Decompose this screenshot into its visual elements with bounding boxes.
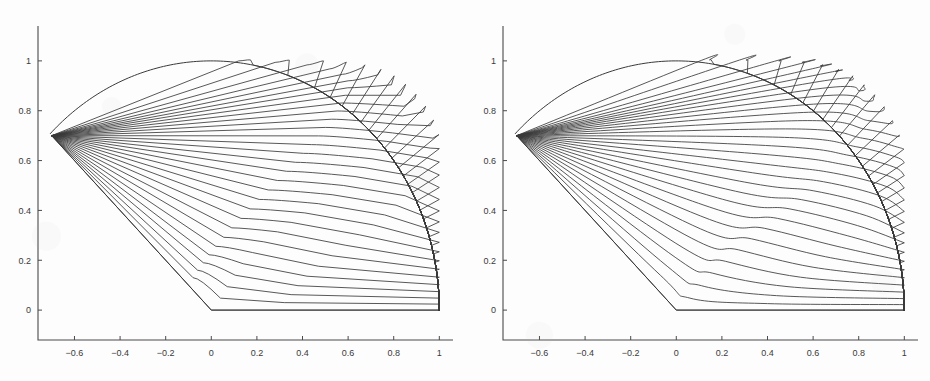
x-tick-label: 0.4 (296, 348, 309, 358)
x-tick-label: 0.2 (251, 348, 264, 358)
outer-arc-boundary (50, 61, 439, 310)
domain-boundary (52, 136, 440, 310)
contour-group (52, 60, 440, 310)
y-tick-label: 1 (26, 56, 31, 66)
x-tick-label: −0.2 (622, 348, 640, 358)
contour-line (517, 69, 905, 310)
contour-line (52, 136, 440, 310)
contour-line (52, 136, 440, 310)
contour-line (517, 95, 905, 310)
y-tick-label: 0.2 (18, 256, 31, 266)
contour-line (52, 60, 440, 310)
contour-line (52, 136, 440, 310)
x-tick-label: 0 (209, 348, 214, 358)
x-tick-label: 0.4 (761, 348, 774, 358)
x-tick-label: −0.4 (576, 348, 594, 358)
contour-line (52, 84, 440, 310)
x-tick-label: −0.2 (157, 348, 175, 358)
y-tick-label: 0.8 (18, 106, 31, 116)
y-tick-label: 0.6 (18, 156, 31, 166)
contour-line (52, 136, 440, 310)
y-tick-label: 0 (26, 305, 31, 315)
contour-line (52, 136, 440, 310)
contour-line (52, 136, 440, 310)
x-tick-label: −0.6 (66, 348, 84, 358)
y-tick-label: 0.8 (483, 106, 496, 116)
contour-line (52, 136, 440, 310)
x-tick-label: 0.8 (852, 348, 865, 358)
contour-line (52, 136, 440, 310)
contour-line (52, 61, 440, 310)
x-tick-label: 1 (902, 348, 907, 358)
contour-line (52, 136, 440, 310)
contour-line (52, 136, 440, 310)
x-tick-label: 0.6 (342, 348, 355, 358)
contour-line (52, 136, 440, 310)
contour-line (52, 60, 440, 310)
contour-line (517, 112, 905, 310)
contour-line (52, 65, 440, 310)
plot-svg-right: −0.6−0.4−0.200.20.40.60.8100.20.40.60.81 (465, 0, 930, 381)
x-tick-label: −0.6 (531, 348, 549, 358)
y-tick-label: 0.4 (18, 206, 31, 216)
plot-panel-right: −0.6−0.4−0.200.20.40.60.8100.20.40.60.81 (465, 0, 930, 381)
plot-panel-left: −0.6−0.4−0.200.20.40.60.8100.20.40.60.81 (0, 0, 465, 381)
contour-line (52, 106, 440, 310)
x-tick-label: 0 (674, 348, 679, 358)
y-tick-label: 0.6 (483, 156, 496, 166)
contour-line (52, 62, 440, 310)
plot-svg-left: −0.6−0.4−0.200.20.40.60.8100.20.40.60.81 (0, 0, 465, 381)
contour-line (52, 136, 440, 310)
y-tick-label: 0 (491, 305, 496, 315)
contour-line (52, 136, 440, 310)
contour-group (517, 55, 905, 310)
contour-line (52, 136, 440, 310)
x-tick-label: 0.8 (387, 348, 400, 358)
contour-line (517, 104, 905, 311)
contour-line (52, 136, 440, 310)
y-tick-label: 1 (491, 56, 496, 66)
x-tick-label: 0.2 (716, 348, 729, 358)
contour-line (52, 76, 440, 310)
contour-line (52, 136, 440, 310)
figure-canvas: −0.6−0.4−0.200.20.40.60.8100.20.40.60.81… (0, 0, 930, 381)
contour-line (517, 136, 905, 310)
y-tick-label: 0.2 (483, 256, 496, 266)
x-tick-label: 0.6 (807, 348, 820, 358)
contour-line (52, 136, 440, 310)
contour-line (52, 136, 440, 310)
x-tick-label: −0.4 (111, 348, 129, 358)
y-tick-label: 0.4 (483, 206, 496, 216)
x-tick-label: 1 (437, 348, 442, 358)
